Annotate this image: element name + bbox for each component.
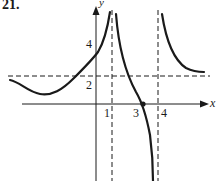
function-graph: 21. x y 4 2 1 3 4 <box>0 0 217 181</box>
curve-left-branch <box>10 12 110 94</box>
curve-right-branch <box>162 14 204 72</box>
y-axis-label: y <box>98 0 104 8</box>
x-tick-3: 3 <box>133 106 139 120</box>
curve-middle-branch <box>116 14 153 181</box>
y-tick-2: 2 <box>86 78 92 92</box>
marked-point-x3 <box>140 101 145 106</box>
problem-number: 21. <box>2 0 20 12</box>
x-axis-label: x <box>209 96 216 110</box>
x-axis-arrow-icon <box>200 101 209 108</box>
x-tick-1: 1 <box>104 106 110 120</box>
y-tick-4: 4 <box>86 37 92 51</box>
x-tick-4: 4 <box>161 106 167 120</box>
